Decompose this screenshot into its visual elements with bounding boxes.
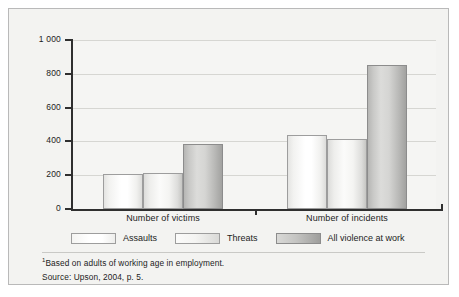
bar (367, 65, 407, 209)
plot-area (71, 40, 436, 209)
legend-label: Threats (227, 233, 258, 243)
chart-figure: 1 0008006004002000 Number of victimsNumb… (0, 0, 459, 297)
legend-item: Assaults (71, 233, 157, 244)
category-label: Number of victims (103, 213, 223, 223)
bar (143, 173, 183, 209)
y-axis-tick-label: 1 000 (9, 34, 61, 44)
footnote-note: 1Based on adults of working age in emplo… (42, 257, 224, 268)
footnote-note-text: Based on adults of working age in employ… (45, 258, 224, 268)
y-axis-tick (65, 39, 71, 41)
y-axis-tick (65, 174, 71, 176)
chart-legend: AssaultsThreatsAll violence at work (71, 231, 423, 245)
y-axis-tick-label: 400 (9, 135, 61, 145)
x-axis-tick (255, 209, 257, 215)
chart-panel: 1 0008006004002000 Number of victimsNumb… (8, 8, 449, 285)
bar (287, 135, 327, 209)
y-axis-tick-label: 0 (9, 203, 61, 213)
footnote-divider (42, 252, 425, 253)
y-axis-tick-label: 200 (9, 169, 61, 179)
legend-item: Threats (175, 233, 258, 244)
y-axis-tick (65, 140, 71, 142)
y-axis-line (71, 39, 73, 210)
legend-label: Assaults (123, 233, 157, 243)
legend-label: All violence at work (328, 233, 405, 243)
legend-swatch (276, 233, 321, 244)
category-label: Number of incidents (287, 213, 407, 223)
y-axis-tick (65, 73, 71, 75)
bar (327, 139, 367, 209)
y-axis-tick-label: 800 (9, 68, 61, 78)
x-axis-tick (441, 204, 443, 210)
bar (103, 174, 143, 209)
y-axis-tick-label: 600 (9, 102, 61, 112)
legend-item: All violence at work (276, 233, 405, 244)
footnote-source: Source: Upson, 2004, p. 5. (42, 272, 143, 282)
bar (183, 144, 223, 209)
x-axis-tick (71, 204, 73, 210)
y-axis-tick (65, 107, 71, 109)
gridline (71, 40, 436, 41)
x-axis-line (71, 209, 443, 211)
legend-swatch (175, 233, 220, 244)
legend-swatch (71, 233, 116, 244)
